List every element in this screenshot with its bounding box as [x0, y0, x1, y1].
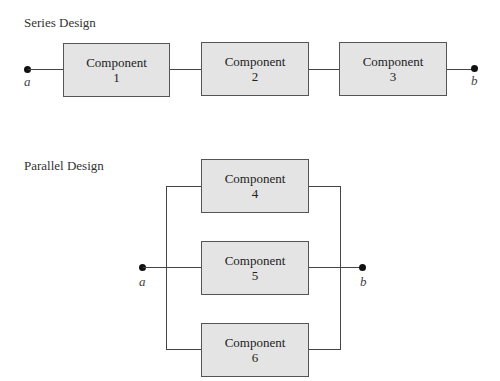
- parallel-wire-6-right: [309, 349, 340, 350]
- component-number: 2: [252, 69, 259, 84]
- series-component-1: Component 1: [63, 43, 170, 97]
- series-wire-a-1: [28, 69, 64, 70]
- series-wire-2-3: [309, 69, 339, 70]
- series-component-3: Component 3: [339, 42, 447, 96]
- parallel-wire-left-4: [166, 186, 201, 187]
- parallel-component-4: Component 4: [201, 159, 309, 213]
- parallel-component-6: Component 6: [201, 323, 309, 377]
- parallel-left-bus: [166, 186, 167, 350]
- component-label: Component: [225, 54, 286, 69]
- component-label: Component: [86, 55, 147, 70]
- parallel-wire-a-5: [143, 267, 201, 268]
- series-wire-1-2: [170, 69, 201, 70]
- component-number: 4: [252, 186, 259, 201]
- component-label: Component: [225, 335, 286, 350]
- component-label: Component: [363, 54, 424, 69]
- parallel-node-b: [359, 264, 366, 271]
- component-label: Component: [225, 253, 286, 268]
- parallel-right-bus: [340, 186, 341, 350]
- parallel-terminal-a-label: a: [139, 274, 146, 290]
- reliability-diagram: Series Design a Component 1 Component 2 …: [0, 0, 500, 381]
- parallel-terminal-b-label: b: [360, 274, 367, 290]
- series-wire-3-b: [447, 69, 474, 70]
- series-terminal-a-label: a: [24, 74, 31, 90]
- component-number: 5: [252, 268, 259, 283]
- parallel-design-title: Parallel Design: [24, 158, 104, 174]
- component-label: Component: [225, 171, 286, 186]
- parallel-wire-4-right: [309, 186, 340, 187]
- series-design-title: Series Design: [24, 15, 96, 31]
- parallel-component-5: Component 5: [201, 241, 309, 295]
- component-number: 3: [390, 69, 397, 84]
- series-node-b: [471, 65, 478, 72]
- component-number: 6: [252, 350, 259, 365]
- series-component-2: Component 2: [201, 42, 309, 96]
- parallel-wire-5-b: [309, 267, 362, 268]
- component-number: 1: [113, 70, 120, 85]
- parallel-wire-left-6: [166, 349, 201, 350]
- series-terminal-b-label: b: [471, 73, 478, 89]
